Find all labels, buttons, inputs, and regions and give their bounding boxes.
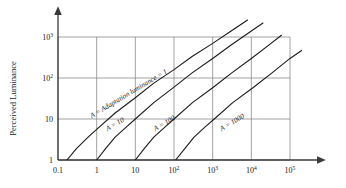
y-tick-label: 10: [45, 115, 53, 124]
curve-label-2: A = 100: [151, 114, 176, 134]
y-tick-label: 1: [49, 156, 53, 165]
curve-series-2: [135, 35, 281, 160]
y-axis-title: Perceived Luminance: [8, 61, 18, 136]
perceived-luminance-chart: A = Adaptation luminance = 1A = 10A = 10…: [0, 0, 346, 188]
x-tick-label: 105: [285, 165, 296, 175]
y-tick-label: 103: [42, 32, 53, 42]
x-tick-label: 103: [207, 165, 218, 175]
x-tick-label: 0.1: [53, 166, 63, 175]
chart-canvas: A = Adaptation luminance = 1A = 10A = 10…: [0, 0, 346, 188]
curve-group: [67, 20, 302, 160]
curve-label-0: A = Adaptation luminance = 1: [88, 68, 169, 121]
x-tick-label: 102: [169, 165, 180, 175]
axis-title-group: Perceived Luminance: [8, 61, 18, 136]
x-tick-label: 10: [131, 166, 139, 175]
x-tick-label: 1: [95, 166, 99, 175]
curve-label-3: A = 1000: [218, 112, 247, 134]
curve-series-1: [97, 23, 263, 160]
curve-series-3: [176, 50, 302, 160]
curve-series-0: [67, 20, 248, 160]
x-tick-label: 104: [246, 165, 257, 175]
y-tick-label: 102: [42, 73, 53, 83]
curve-label-group: A = Adaptation luminance = 1A = 10A = 10…: [88, 68, 246, 134]
